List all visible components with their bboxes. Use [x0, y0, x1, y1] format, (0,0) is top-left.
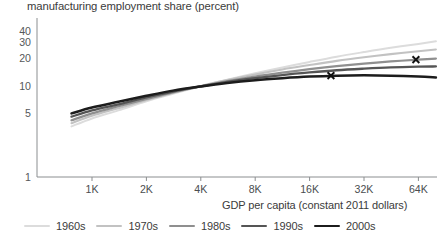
legend-swatch-2000s	[314, 225, 340, 227]
legend-label: 1990s	[273, 220, 302, 232]
x-tick-label: 64K	[409, 184, 428, 195]
legend-swatch-1990s	[241, 225, 267, 227]
x-axis-tick-marks	[92, 177, 418, 181]
x-tick-label: 32K	[355, 184, 374, 195]
x-tick-label: 8K	[249, 184, 262, 195]
legend-item-1970s[interactable]: 1970s	[96, 220, 157, 232]
legend-swatch-1980s	[169, 225, 195, 227]
chart-figure: manufacturing employment share (percent)…	[0, 0, 444, 238]
legend-item-1990s[interactable]: 1990s	[241, 220, 302, 232]
x-axis-label: GDP per capita (constant 2011 dollars)	[222, 199, 407, 211]
chart-legend: 1960s1970s1980s1990s2000s	[24, 218, 444, 234]
legend-swatch-1970s	[96, 225, 122, 227]
legend-item-1980s[interactable]: 1980s	[169, 220, 230, 232]
axis-lines	[37, 18, 437, 177]
legend-label: 1970s	[128, 220, 157, 232]
legend-label: 1980s	[201, 220, 230, 232]
x-tick-label: 4K	[194, 184, 207, 195]
series-line-1960s	[71, 41, 435, 126]
legend-item-2000s[interactable]: 2000s	[314, 220, 375, 232]
legend-label: 1960s	[56, 220, 85, 232]
legend-swatch-1960s	[24, 225, 50, 227]
x-tick-label: 2K	[140, 184, 153, 195]
series-line-1970s	[71, 49, 435, 123]
data-curves	[71, 41, 435, 126]
x-tick-label: 1K	[86, 184, 99, 195]
x-tick-label: 16K	[300, 184, 319, 195]
legend-label: 2000s	[346, 220, 375, 232]
legend-item-1960s[interactable]: 1960s	[24, 220, 85, 232]
